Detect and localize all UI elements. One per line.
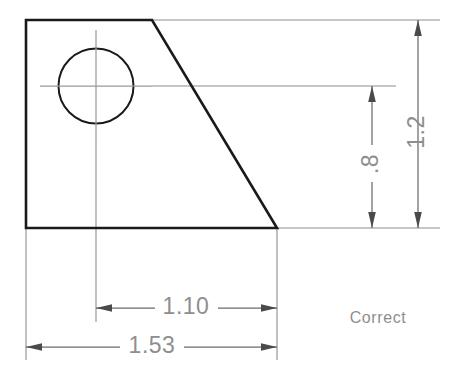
dim-arrow-overall-width-left <box>26 343 42 351</box>
dim-arrow-hole-center-height-top <box>368 86 376 102</box>
dim-text-overall-width: 1.53 <box>129 332 176 358</box>
dimension-hole-center-height: .8 <box>357 86 383 228</box>
dim-arrow-hole-to-edge-right <box>261 304 277 312</box>
dim-text-hole-to-edge-width: 1.10 <box>163 293 210 319</box>
engineering-drawing-canvas: 1.2 .8 1.10 1.53 Correct <box>0 0 458 378</box>
dimension-overall-width: 1.53 <box>26 332 277 358</box>
part-outline <box>26 20 277 228</box>
dim-arrow-overall-height-top <box>414 20 422 36</box>
dim-arrow-hole-to-edge-left <box>96 304 112 312</box>
correct-note-label: Correct <box>350 309 407 326</box>
dim-text-hole-center-height: .8 <box>357 154 383 174</box>
dim-arrow-overall-height-bottom <box>414 212 422 228</box>
hole-centerlines-group <box>40 30 152 142</box>
drawing-svg: 1.2 .8 1.10 1.53 Correct <box>0 0 458 378</box>
dimension-overall-height: 1.2 <box>403 20 429 228</box>
dim-arrow-hole-center-height-bottom <box>368 212 376 228</box>
dim-arrow-overall-width-right <box>261 343 277 351</box>
dim-text-overall-height: 1.2 <box>403 115 429 148</box>
dimension-hole-to-edge-width: 1.10 <box>96 293 277 319</box>
